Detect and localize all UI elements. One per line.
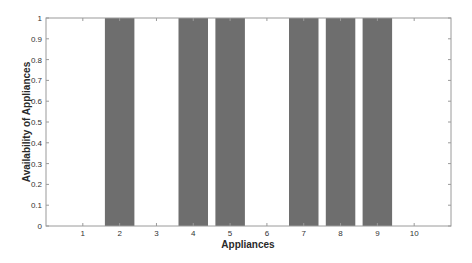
- y-tick-label: 0.4: [31, 139, 43, 148]
- bars-group: [105, 18, 392, 226]
- bar-appliance-7: [289, 18, 319, 226]
- bar-appliance-9: [363, 18, 393, 226]
- y-tick-label: 0: [38, 222, 43, 231]
- y-tick-label: 1: [38, 14, 43, 23]
- y-axis-label: Availability of Appliances: [21, 61, 32, 182]
- bar-appliance-4: [179, 18, 209, 226]
- x-axis-label: Appliances: [221, 239, 275, 250]
- y-tick-label: 0.3: [31, 160, 43, 169]
- x-tick-label: 9: [375, 229, 380, 238]
- y-tick-label: 0.1: [31, 201, 43, 210]
- y-tick-label: 0.7: [31, 76, 43, 85]
- x-tick-label: 7: [302, 229, 307, 238]
- x-tick-label: 4: [191, 229, 196, 238]
- x-tick-label: 8: [338, 229, 343, 238]
- x-tick-label: 3: [154, 229, 159, 238]
- x-tick-label: 5: [228, 229, 233, 238]
- x-tick-label: 2: [117, 229, 122, 238]
- bar-chart: 00.10.20.30.40.50.60.70.80.91 1234567891…: [0, 0, 472, 263]
- y-tick-label: 0.2: [31, 180, 43, 189]
- x-tick-label: 1: [81, 229, 86, 238]
- y-tick-label: 0.9: [31, 35, 43, 44]
- x-tick-label: 6: [265, 229, 270, 238]
- y-tick-label: 0.6: [31, 97, 43, 106]
- bar-appliance-2: [105, 18, 134, 226]
- bar-appliance-5: [215, 18, 245, 226]
- y-tick-label: 0.8: [31, 56, 43, 65]
- bar-appliance-8: [326, 18, 356, 226]
- x-tick-label: 10: [410, 229, 419, 238]
- y-tick-label: 0.5: [31, 118, 43, 127]
